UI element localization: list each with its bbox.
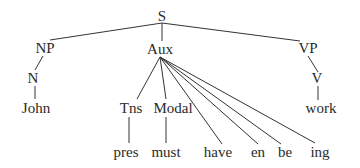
node-modal: Modal: [153, 101, 192, 116]
edge-np-n: [35, 56, 43, 70]
leaf-have: have: [204, 145, 232, 160]
leaf-work: work: [306, 101, 337, 116]
leaf-ing: ing: [310, 145, 329, 160]
syntax-tree-diagram: S NP Aux VP N V John Tns Modal work pres…: [0, 0, 360, 168]
edge-aux-tns: [137, 57, 160, 99]
edge-s-np: [50, 23, 162, 40]
node-v: V: [312, 71, 323, 86]
node-tns: Tns: [120, 101, 143, 116]
node-aux: Aux: [147, 42, 173, 57]
node-vp: VP: [298, 41, 317, 56]
node-np: NP: [35, 41, 54, 56]
leaf-en: en: [251, 145, 265, 160]
node-n: N: [28, 71, 39, 86]
edge-s-vp: [162, 23, 300, 41]
leaf-pres: pres: [114, 145, 139, 160]
leaf-john: John: [22, 101, 50, 116]
leaf-must: must: [151, 145, 180, 160]
leaf-be: be: [278, 145, 292, 160]
node-s: S: [158, 9, 166, 24]
